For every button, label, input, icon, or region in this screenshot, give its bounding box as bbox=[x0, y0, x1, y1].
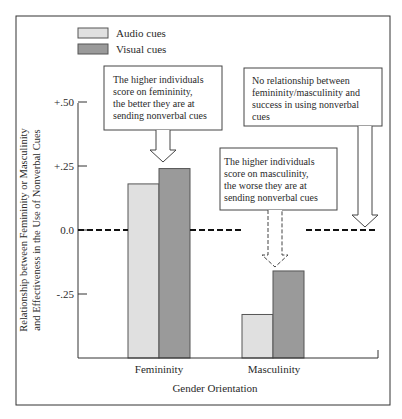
chart: Audio cues Visual cues Relationship betw… bbox=[0, 0, 402, 419]
legend-swatch-visual bbox=[78, 44, 108, 54]
category-label-femininity: Femininity bbox=[135, 363, 184, 375]
svg-text:the better they are at: the better they are at bbox=[113, 98, 195, 109]
svg-text:femininity/masculinity and: femininity/masculinity and bbox=[252, 87, 360, 98]
svg-text:sending nonverbal cues: sending nonverbal cues bbox=[113, 110, 207, 121]
bar-femininity-visual bbox=[159, 169, 190, 358]
x-axis-title: Gender Orientation bbox=[172, 382, 258, 394]
svg-text:success in using nonverbal: success in using nonverbal bbox=[252, 99, 359, 110]
y-tick-label: +.50 bbox=[54, 96, 74, 108]
y-tick-label: 0.0 bbox=[60, 224, 74, 236]
svg-text:score on femininity,: score on femininity, bbox=[113, 86, 193, 97]
legend-label-audio: Audio cues bbox=[116, 27, 166, 39]
svg-text:sending nonverbal cues: sending nonverbal cues bbox=[224, 192, 318, 203]
y-axis-title-line-2: and Effectiveness in the Use of Nonverba… bbox=[31, 129, 42, 330]
legend-swatch-audio bbox=[78, 28, 108, 38]
svg-text:score on masculinity,: score on masculinity, bbox=[224, 168, 309, 179]
y-tick-label: -.25 bbox=[57, 288, 75, 300]
bar-masculinity-visual bbox=[273, 271, 304, 358]
svg-text:No relationship between: No relationship between bbox=[252, 75, 350, 86]
svg-text:cues: cues bbox=[252, 111, 270, 122]
bar-femininity-audio bbox=[128, 184, 159, 358]
svg-text:The higher individuals: The higher individuals bbox=[224, 156, 315, 167]
svg-text:The higher individuals: The higher individuals bbox=[113, 74, 204, 85]
category-label-masculinity: Masculinity bbox=[248, 363, 301, 375]
bar-masculinity-audio bbox=[242, 314, 273, 358]
y-axis-title-line-1: Relationship between Femininity or Mascu… bbox=[18, 127, 29, 331]
legend-label-visual: Visual cues bbox=[116, 43, 166, 55]
svg-text:the worse they are at: the worse they are at bbox=[224, 180, 307, 191]
y-tick-label: +.25 bbox=[54, 160, 74, 172]
